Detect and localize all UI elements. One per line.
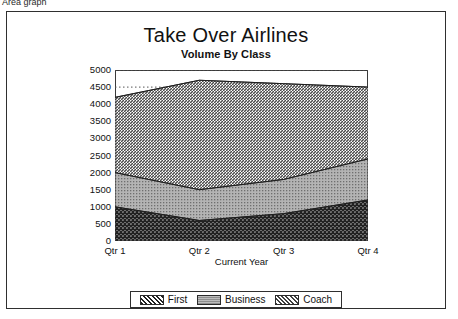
y-tick-label: 3500	[73, 116, 111, 126]
chart-title: Take Over Airlines	[7, 24, 445, 46]
legend-label: First	[168, 294, 187, 305]
legend-item-business[interactable]: Business	[197, 294, 266, 305]
y-tick-label: 2000	[73, 168, 111, 178]
chart-subtitle: Volume By Class	[7, 48, 445, 61]
legend-swatch-first-icon	[140, 295, 164, 305]
y-tick-label: 3000	[73, 133, 111, 143]
legend-swatch-coach-icon	[275, 295, 299, 305]
y-tick-label: 1000	[73, 202, 111, 212]
legend-swatch-business-icon	[197, 295, 221, 305]
x-tick-label: Qtr 1	[92, 245, 138, 256]
y-tick-label: 4500	[73, 82, 111, 92]
figure-caption: Area graph	[2, 0, 47, 7]
y-tick-label: 5000	[73, 65, 111, 75]
y-tick-label: 2500	[73, 151, 111, 161]
y-tick-label: 4000	[73, 99, 111, 109]
legend-label: Business	[225, 294, 266, 305]
legend-label: Coach	[303, 294, 332, 305]
figure-frame: Take Over Airlines Volume By Class Passe…	[6, 11, 446, 309]
area-chart-svg	[115, 70, 368, 241]
x-axis-tick-labels: Qtr 1Qtr 2Qtr 3Qtr 4	[115, 242, 368, 256]
x-axis-title: Current Year	[115, 256, 368, 268]
y-tick-label: 1500	[73, 185, 111, 195]
y-axis-tick-labels: 0500100015002000250030003500400045005000	[69, 70, 111, 241]
chart-legend: FirstBusinessCoach	[130, 291, 342, 308]
screenshot-root: Area graph Take Over Airlines Volume By …	[0, 0, 458, 319]
x-tick-label: Qtr 2	[176, 245, 222, 256]
y-tick-label: 500	[73, 219, 111, 229]
legend-item-coach[interactable]: Coach	[275, 294, 332, 305]
plot-area	[115, 70, 368, 241]
legend-item-first[interactable]: First	[140, 294, 187, 305]
x-tick-label: Qtr 3	[261, 245, 307, 256]
x-tick-label: Qtr 4	[345, 245, 391, 256]
